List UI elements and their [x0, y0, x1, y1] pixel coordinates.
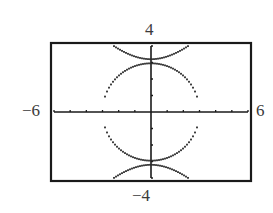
axes: [54, 46, 248, 178]
graph-plot: [0, 0, 273, 213]
